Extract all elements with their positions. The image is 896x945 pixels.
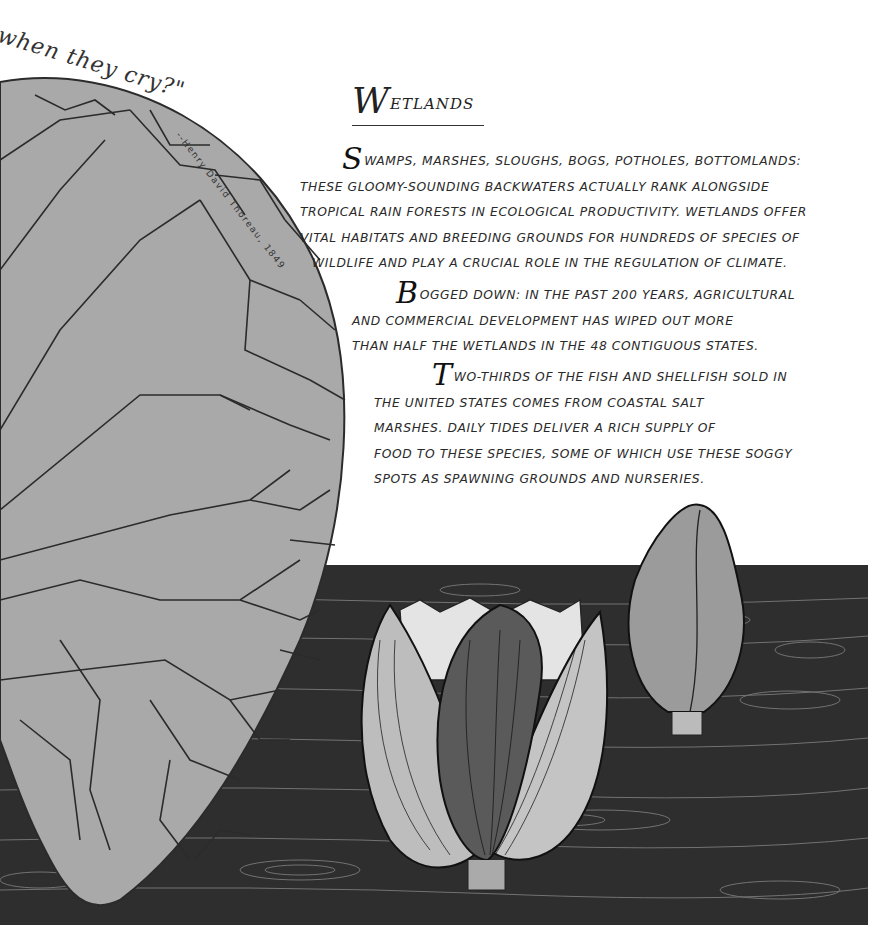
paragraph-line: Two-thirds of the fish and shellfish sol…	[374, 362, 792, 391]
paragraph-line: Swamps, marshes, sloughs, bogs, potholes…	[300, 146, 807, 175]
paragraph-line: the United States comes from coastal sal…	[374, 391, 792, 417]
paragraph-swamps: Swamps, marshes, sloughs, bogs, potholes…	[300, 146, 807, 277]
paragraph-line: and commercial development has wiped out…	[352, 309, 795, 335]
line-text: wamps, marshes, sloughs, bogs, potholes,…	[364, 154, 801, 168]
paragraph-line: tropical rain forests in ecological prod…	[300, 200, 807, 226]
paragraph-line: Bogged down: In the past 200 years, agri…	[352, 280, 795, 309]
title-initial: W	[352, 80, 390, 121]
paragraph-line: marshes. Daily tides deliver a rich supp…	[374, 416, 792, 442]
paragraph-two-thirds: Two-thirds of the fish and shellfish sol…	[374, 362, 792, 493]
drop-cap: S	[342, 141, 363, 176]
paragraph-line: vital habitats and breeding grounds for …	[300, 226, 807, 252]
paragraph-bogged-down: Bogged down: In the past 200 years, agri…	[352, 280, 795, 360]
paragraph-line: than half the wetlands in the 48 contigu…	[352, 334, 795, 360]
paragraph-line: food to these species, some of which use…	[374, 442, 792, 468]
drop-cap: B	[396, 275, 419, 310]
paragraph-line: spots as spawning grounds and nurseries.	[374, 467, 792, 493]
line-text: wo-thirds of the fish and shellfish sold…	[454, 370, 788, 384]
paragraph-line: wildlife and play a crucial role in the …	[300, 251, 807, 277]
line-text: ogged down: In the past 200 years, agric…	[420, 288, 796, 302]
drop-cap: T	[432, 357, 453, 392]
paragraph-line: these gloomy-sounding backwaters actuall…	[300, 175, 807, 201]
page-title: Wetlands	[352, 80, 484, 126]
title-rest: etlands	[390, 95, 474, 113]
